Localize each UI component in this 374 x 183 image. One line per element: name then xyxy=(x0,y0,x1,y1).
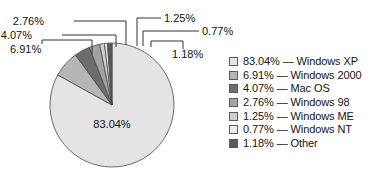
legend-item-mac-os[interactable]: 4.07% — Mac OS xyxy=(229,82,374,96)
legend-item-label: 83.04% — Windows XP xyxy=(243,56,358,67)
callout-windows-nt: 0.77% xyxy=(202,25,233,37)
legend-item-label: 1.18% — Other xyxy=(243,138,318,149)
leader-line-windows-98 xyxy=(74,21,126,45)
legend-item-windows-nt[interactable]: 0.77% — Windows NT xyxy=(229,123,374,137)
legend-swatch-icon xyxy=(229,84,238,93)
pie-center-label: 83.04% xyxy=(93,118,131,130)
legend-swatch-icon xyxy=(229,98,238,107)
pie-slices-group: 83.04% Windows XP6.91% Windows 20004.07%… xyxy=(50,43,174,167)
legend-swatch-icon xyxy=(229,112,238,121)
callout-other: 1.18% xyxy=(172,48,203,60)
legend-item-windows-me[interactable]: 1.25% — Windows ME xyxy=(229,109,374,123)
legend-swatch-icon xyxy=(229,71,238,80)
legend-item-label: 2.76% — Windows 98 xyxy=(243,97,349,108)
chart-legend: 83.04% — Windows XP6.91% — Windows 20004… xyxy=(229,55,374,150)
legend-item-windows-xp[interactable]: 83.04% — Windows XP xyxy=(229,55,374,69)
legend-item-label: 0.77% — Windows NT xyxy=(243,124,352,135)
pie-chart-figure: 83.04% Windows XP6.91% Windows 20004.07%… xyxy=(0,0,374,183)
legend-item-windows-2000[interactable]: 6.91% — Windows 2000 xyxy=(229,69,374,83)
callout-mac-os: 4.07% xyxy=(1,29,32,41)
legend-item-other[interactable]: 1.18% — Other xyxy=(229,137,374,151)
callout-windows-me: 1.25% xyxy=(164,12,195,24)
legend-item-label: 4.07% — Mac OS xyxy=(243,83,330,94)
leader-line-windows-me xyxy=(137,18,161,46)
callout-windows-2000: 6.91% xyxy=(10,43,41,55)
legend-swatch-icon xyxy=(229,57,238,66)
legend-item-label: 6.91% — Windows 2000 xyxy=(243,70,361,81)
legend-swatch-icon xyxy=(229,125,238,134)
callout-windows-98: 2.76% xyxy=(13,15,44,27)
legend-item-label: 1.25% — Windows ME xyxy=(243,111,354,122)
legend-swatch-icon xyxy=(229,139,238,148)
legend-item-windows-98[interactable]: 2.76% — Windows 98 xyxy=(229,96,374,110)
